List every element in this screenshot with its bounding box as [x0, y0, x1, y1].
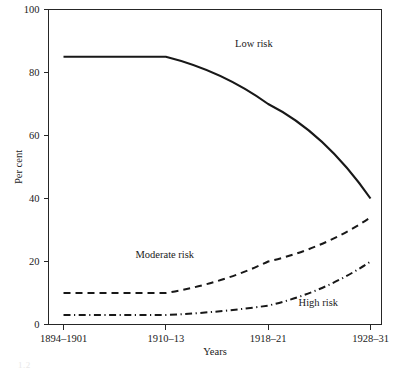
- x-tick-label: 1918–21: [250, 333, 287, 344]
- y-axis: 020406080100: [24, 4, 49, 330]
- line-chart: 020406080100 1894–19011910–131918–211928…: [0, 0, 398, 376]
- data-series-group: [64, 57, 371, 315]
- y-tick-label: 60: [29, 130, 40, 141]
- x-tick-label: 1894–1901: [40, 333, 87, 344]
- caption-fragment: 1.2: [18, 360, 31, 370]
- y-tick-label: 100: [24, 4, 40, 15]
- y-tick-label: 80: [29, 67, 40, 78]
- y-axis-title: Per cent: [13, 150, 24, 184]
- series-line-low-risk: [64, 57, 371, 199]
- series-label-high-risk: High risk: [299, 297, 339, 308]
- x-tick-label: 1910–13: [147, 333, 184, 344]
- y-tick-label: 40: [29, 193, 40, 204]
- y-tick-label: 20: [29, 256, 40, 267]
- x-axis: 1894–19011910–131918–211928–31: [40, 325, 389, 344]
- y-tick-label: 0: [34, 319, 39, 330]
- figure-container: 020406080100 1894–19011910–131918–211928…: [0, 0, 398, 376]
- series-label-moderate-risk: Moderate risk: [136, 249, 195, 260]
- x-axis-title: Years: [203, 346, 226, 357]
- series-annotations: Low riskModerate riskHigh risk: [136, 38, 339, 307]
- series-line-moderate-risk: [64, 217, 371, 293]
- series-label-low-risk: Low risk: [235, 38, 273, 49]
- x-tick-label: 1928–31: [352, 333, 389, 344]
